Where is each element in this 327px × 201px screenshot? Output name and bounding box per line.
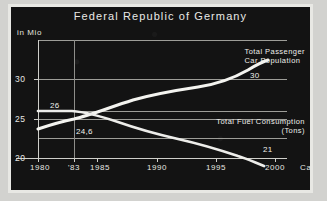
x-tick-label-1985: 1985 — [90, 163, 110, 172]
x-tick-label-1983: '83 — [68, 163, 80, 172]
annotation-car-end-30: 30 — [250, 71, 260, 80]
x-axis-title: Cal. Year — [300, 163, 310, 172]
x-tick-2000 — [275, 158, 276, 162]
chart-figure: Federal Republic of Germany in Mio 30 25 — [0, 0, 327, 201]
chart-panel: Federal Republic of Germany in Mio 30 25 — [11, 7, 310, 190]
x-tick-label-2000: 2000 — [265, 163, 285, 172]
x-tick-label-1995: 1995 — [206, 163, 226, 172]
annotation-fuel-start-26: 26 — [50, 101, 60, 110]
x-tick-1980 — [38, 158, 39, 162]
legend-passenger-car-line2: Car Population — [244, 56, 305, 65]
y-tick-label-30: 30 — [15, 74, 25, 84]
annotation-car-mid-24-6: 24,6 — [76, 127, 93, 136]
legend-fuel-line1: Total Fuel Consumption — [216, 117, 305, 126]
chart-title: Federal Republic of Germany — [11, 10, 310, 22]
chart-frame: Federal Republic of Germany in Mio 30 25 — [8, 4, 313, 193]
x-tick-label-1980: 1980 — [30, 163, 50, 172]
y-tick-label-25: 25 — [15, 114, 25, 124]
y-axis-unit-label: in Mio — [17, 28, 42, 37]
x-tick-1995 — [216, 158, 217, 162]
x-tick-1983 — [74, 158, 75, 162]
legend-passenger-car-line1: Total Passenger — [244, 47, 305, 56]
legend-passenger-car-population: Total Passenger Car Population — [244, 47, 305, 65]
x-tick-label-1990: 1990 — [147, 163, 167, 172]
legend-fuel-consumption: Total Fuel Consumption (Tons) — [216, 117, 305, 135]
legend-fuel-line2: (Tons) — [216, 126, 305, 135]
x-tick-1985 — [97, 158, 98, 162]
x-tick-1990 — [157, 158, 158, 162]
y-tick-label-20: 20 — [15, 153, 25, 163]
annotation-fuel-end-21: 21 — [263, 145, 273, 154]
